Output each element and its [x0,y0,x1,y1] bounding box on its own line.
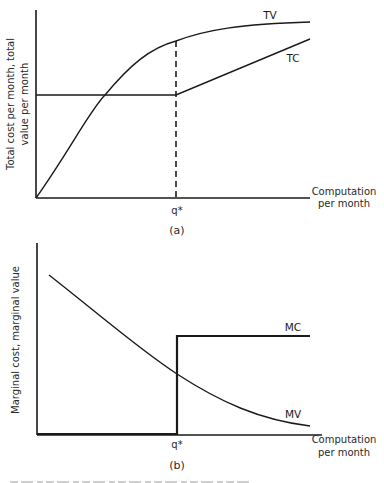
mc-step-line [37,336,310,434]
mc-label: MC [285,321,301,333]
tv-curve [36,22,310,198]
mv-curve [49,275,310,426]
q-star-tick-label-b: q* [171,439,182,450]
mv-label: MV [285,408,302,420]
x-axis-label-a-line2: per month [318,198,370,209]
tc-line [36,39,310,95]
tc-label: TC [285,52,299,64]
x-axis-label-a-line1: Computation [312,186,377,197]
y-axis-label-a-line1: Total cost per month, total [5,38,16,171]
figure: Total cost per month, total value per mo… [0,0,384,483]
x-axis-label-b-line1: Computation [312,434,377,445]
q-star-tick-label-a: q* [171,205,182,216]
y-axis-label-a-line2: value per month [19,63,30,146]
panel-b: Marginal cost, marginal value Computatio… [10,243,376,472]
panel-b-caption: (b) [169,459,185,472]
x-axis-label-b-line2: per month [318,447,370,458]
tv-label: TV [262,9,277,21]
y-axis-label-b: Marginal cost, marginal value [10,266,21,414]
panel-a-caption: (a) [169,224,184,237]
panel-a: Total cost per month, total value per mo… [5,9,376,237]
